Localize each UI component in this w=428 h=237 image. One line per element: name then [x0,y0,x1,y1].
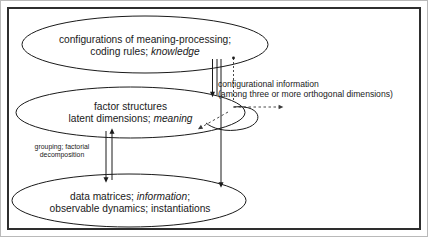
top-layer-label: configurations of meaning-processing; co… [22,34,268,58]
configurational-line1: configurational information [218,79,319,89]
middle-layer-label: factor structures latent dimensions; mea… [16,101,245,125]
bottom-layer-label: data matrices; information; observable d… [14,191,246,215]
top-layer-line2-italic: knowledge [151,46,200,57]
bottom-layer-line1-italic: information [137,191,187,202]
configurational-line2: (among three or more orthogonal dimensio… [218,89,393,99]
middle-layer-line1: factor structures [94,101,167,112]
bottom-layer-line1-plain-a: data matrices; [70,191,137,202]
bottom-layer-line2: observable dynamics; instantiations [50,203,211,214]
top-layer-line1: configurations of meaning-processing; [59,34,231,45]
grouping-line1: grouping; factorial [35,143,90,150]
bottom-layer-line1-plain-b: ; [187,191,190,202]
top-layer-line2-plain: coding rules; [90,46,151,57]
grouping-line2: decomposition [40,151,84,158]
middle-layer-line2-italic: meaning [153,113,192,124]
grouping-decomposition-label: grouping; factorial decomposition [22,143,102,160]
middle-layer-line2-plain: latent dimensions; [68,113,153,124]
diagram-figure: configurations of meaning-processing; co… [0,0,428,237]
configurational-information-label: configurational information (among three… [218,79,424,99]
